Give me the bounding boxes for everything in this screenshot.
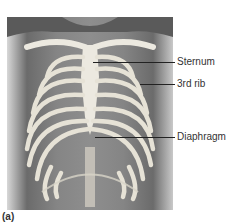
rib-cage-drawing	[7, 17, 173, 210]
sternum-leader-line	[93, 62, 175, 63]
diaphragm-leader-line	[95, 137, 175, 138]
rib-cage-illustration	[7, 17, 173, 210]
third-rib-leader-line	[140, 84, 175, 85]
sternum-label: Sternum	[177, 56, 215, 67]
figure-caption: (a)	[2, 211, 14, 222]
third-rib-label: 3rd rib	[177, 78, 205, 89]
diaphragm-label: Diaphragm	[177, 131, 226, 142]
